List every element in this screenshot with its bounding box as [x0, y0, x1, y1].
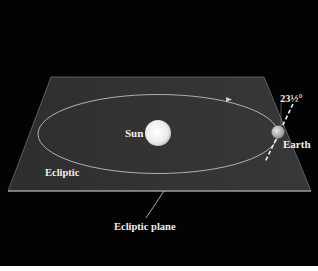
ecliptic-diagram: Sun Earth 23½° Ecliptic Ecliptic plane: [0, 0, 318, 266]
sun: [145, 120, 171, 146]
ecliptic-label: Ecliptic: [45, 167, 80, 178]
ecliptic-plane-label: Ecliptic plane: [114, 221, 176, 232]
tilt-angle-label: 23½°: [280, 93, 303, 104]
earth: [272, 126, 285, 139]
plane-leader-line: [146, 191, 164, 218]
diagram-canvas: Sun Earth 23½° Ecliptic Ecliptic plane: [0, 0, 318, 266]
earth-label: Earth: [283, 138, 311, 150]
sun-label: Sun: [125, 127, 143, 139]
